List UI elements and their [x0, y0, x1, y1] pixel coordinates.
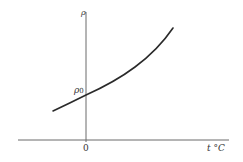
y-axis-label: ρ	[81, 9, 86, 17]
y-intercept-label: ρ0	[74, 86, 84, 95]
origin-label: 0	[83, 144, 89, 153]
chart-canvas	[0, 0, 243, 162]
resistivity-curve	[53, 28, 173, 111]
x-axis-label: t °C	[207, 144, 225, 153]
y-intercept-sub: 0	[79, 87, 83, 95]
